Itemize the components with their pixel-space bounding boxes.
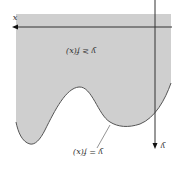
diagram-canvas: x y y ≥ f(x) y = f(x) — [0, 0, 180, 177]
label-leader-line — [97, 125, 110, 148]
x-axis-label: x — [12, 14, 17, 23]
y-axis-label: y — [160, 142, 166, 151]
x-axis-arrow-icon — [12, 25, 18, 30]
shaded-region — [16, 14, 171, 144]
curve-label: y = f(x) — [73, 148, 104, 157]
y-axis-arrow-icon — [153, 143, 158, 149]
region-label: y ≥ f(x) — [66, 47, 97, 56]
